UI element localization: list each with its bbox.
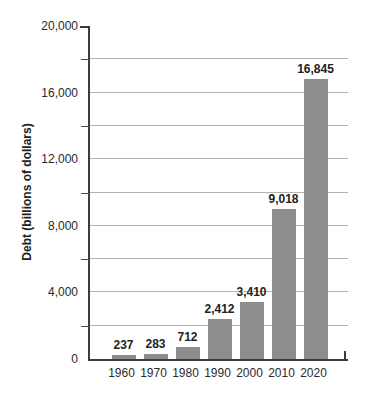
bar-value-label: 16,845 bbox=[297, 62, 334, 76]
x-axis-end-tick bbox=[344, 351, 346, 359]
y-tick-label: 12,000 bbox=[0, 152, 78, 166]
bar-value-label: 712 bbox=[177, 330, 197, 344]
y-axis-minor-tick bbox=[81, 59, 89, 60]
bar-value-label: 2,412 bbox=[204, 302, 234, 316]
bar bbox=[272, 209, 296, 359]
bar bbox=[208, 319, 232, 359]
gridline bbox=[90, 58, 348, 59]
y-tick-label: 20,000 bbox=[0, 19, 78, 33]
bar-value-label: 9,018 bbox=[268, 192, 298, 206]
bar-value-label: 283 bbox=[145, 337, 165, 351]
y-axis-top-tick bbox=[80, 26, 88, 28]
x-tick-label: 1960 bbox=[108, 366, 135, 380]
x-tick-label: 2010 bbox=[268, 366, 295, 380]
bar-chart-figure: Debt (billions of dollars) 2372837122,41… bbox=[0, 0, 368, 402]
bar bbox=[304, 79, 328, 359]
x-tick-label: 1990 bbox=[204, 366, 231, 380]
x-tick-label: 2000 bbox=[236, 366, 263, 380]
y-axis-minor-tick bbox=[81, 326, 89, 327]
bar bbox=[176, 347, 200, 359]
y-axis-minor-tick bbox=[81, 259, 89, 260]
y-tick-label: 0 bbox=[0, 352, 78, 366]
y-tick-label: 16,000 bbox=[0, 86, 78, 100]
x-tick-label: 2020 bbox=[300, 366, 327, 380]
bar-value-label: 237 bbox=[113, 338, 133, 352]
bar bbox=[112, 355, 136, 359]
y-tick-label: 4,000 bbox=[0, 285, 78, 299]
y-axis-title: Debt (billions of dollars) bbox=[20, 123, 34, 260]
plot-area: 2372837122,4123,4109,01816,845 bbox=[88, 26, 348, 361]
x-tick-label: 1970 bbox=[140, 366, 167, 380]
bar-value-label: 3,410 bbox=[236, 285, 266, 299]
x-tick-label: 1980 bbox=[172, 366, 199, 380]
bar bbox=[240, 302, 264, 359]
bar bbox=[144, 354, 168, 359]
y-tick-label: 8,000 bbox=[0, 219, 78, 233]
y-axis-minor-tick bbox=[81, 193, 89, 194]
y-axis-minor-tick bbox=[81, 126, 89, 127]
